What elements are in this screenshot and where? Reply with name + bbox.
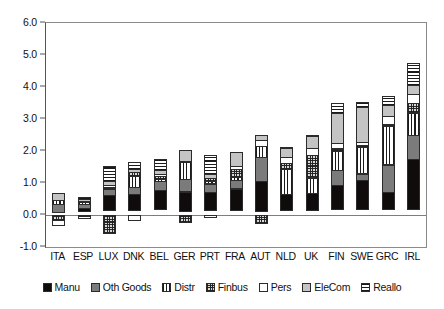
legend-item[interactable]: EleCom xyxy=(302,281,350,293)
y-axis-tick-label: 5.0 xyxy=(23,48,37,60)
bar-segment xyxy=(204,155,217,175)
legend-item-label: EleCom xyxy=(314,281,350,293)
bar-column[interactable] xyxy=(331,23,344,247)
bar-column[interactable] xyxy=(407,23,420,247)
bar-segment xyxy=(78,216,91,219)
bar-segment xyxy=(306,136,319,148)
bar-negative-stack xyxy=(78,215,91,219)
bar-positive-stack xyxy=(356,102,369,215)
x-axis-tick-label: PRT xyxy=(200,250,220,262)
bar-negative-stack xyxy=(204,215,217,218)
bar-segment xyxy=(154,190,167,210)
legend-item-label: Reallo xyxy=(373,281,401,293)
bar-positive-stack xyxy=(179,150,192,215)
legend-item[interactable]: Manu xyxy=(43,281,80,293)
legend-swatch-icon xyxy=(162,283,171,292)
bar-positive-stack xyxy=(154,159,167,215)
y-axis-tick-label: 1.0 xyxy=(23,176,37,188)
bar-positive-stack xyxy=(306,135,319,215)
bar-segment xyxy=(407,113,420,136)
bar-segment xyxy=(128,194,141,211)
bar-column[interactable] xyxy=(280,23,293,247)
bar-segment xyxy=(255,146,268,158)
legend-item-label: Manu xyxy=(55,281,80,293)
x-axis-tick-label: SWE xyxy=(350,250,373,262)
bar-segment xyxy=(280,169,293,195)
bar-positive-stack xyxy=(255,135,268,215)
bar-column[interactable] xyxy=(154,23,167,247)
legend-item[interactable]: Finbus xyxy=(206,281,248,293)
bar-positive-stack xyxy=(230,152,243,215)
bar-segment xyxy=(382,165,395,193)
x-axis-tick-label: FRA xyxy=(225,250,245,262)
bar-positive-stack xyxy=(382,96,395,215)
bar-positive-stack xyxy=(280,147,293,215)
y-axis-tick-label: 2.0 xyxy=(23,144,37,156)
bar-segment xyxy=(356,107,369,142)
y-axis: 6.05.04.03.02.01.00.0-1.0 xyxy=(0,22,45,248)
y-axis-tick-label: 3.0 xyxy=(23,112,37,124)
bar-segment xyxy=(306,155,319,178)
bar-segment xyxy=(356,147,369,174)
y-axis-tick-label: 6.0 xyxy=(23,16,37,28)
legend-swatch-icon xyxy=(206,283,215,292)
bar-segment xyxy=(52,204,65,213)
bar-column[interactable] xyxy=(306,23,319,247)
bar-segment xyxy=(204,215,217,218)
bar-segment xyxy=(255,215,268,224)
bar-positive-stack xyxy=(78,197,91,215)
bar-column[interactable] xyxy=(204,23,217,247)
bar-segment xyxy=(103,215,116,234)
legend-item[interactable]: Oth Goods xyxy=(91,281,152,293)
x-axis-tick-label: DNK xyxy=(123,250,144,262)
bar-column[interactable] xyxy=(78,23,91,247)
bar-segment xyxy=(128,215,141,221)
bar-column[interactable] xyxy=(179,23,192,247)
y-axis-tick-label: -1.0 xyxy=(20,240,37,252)
bar-segment xyxy=(78,208,91,212)
bar-segment xyxy=(382,126,395,165)
bar-column[interactable] xyxy=(230,23,243,247)
legend-swatch-icon xyxy=(91,283,100,292)
bar-negative-stack xyxy=(103,215,116,234)
bar-column[interactable] xyxy=(128,23,141,247)
bar-column[interactable] xyxy=(382,23,395,247)
bar-segment xyxy=(306,178,319,194)
bar-negative-stack xyxy=(128,215,141,221)
legend-swatch-icon xyxy=(43,283,52,292)
bar-column[interactable] xyxy=(52,23,65,247)
bar-positive-stack xyxy=(407,63,420,215)
bar-column[interactable] xyxy=(356,23,369,247)
bar-segment xyxy=(382,192,395,210)
bar-segment xyxy=(230,189,243,211)
bar-segment xyxy=(204,192,217,211)
bar-segment xyxy=(331,170,344,186)
legend-swatch-icon xyxy=(302,283,311,292)
bar-segment xyxy=(331,151,344,171)
legend-item[interactable]: Reallo xyxy=(361,281,401,293)
bar-segment xyxy=(103,166,116,182)
bar-positive-stack xyxy=(128,162,141,215)
bar-segment xyxy=(255,181,268,211)
x-axis-tick-label: GRC xyxy=(376,250,398,262)
legend-swatch-icon xyxy=(259,283,268,292)
bar-segment xyxy=(280,194,293,212)
legend-item[interactable]: Pers xyxy=(259,281,292,293)
x-axis-tick-label: UK xyxy=(304,250,318,262)
bar-negative-stack xyxy=(179,215,192,223)
bar-segment xyxy=(179,215,192,223)
bar-column[interactable] xyxy=(255,23,268,247)
bar-positive-stack xyxy=(204,155,217,215)
bar-positive-stack xyxy=(52,193,65,215)
bar-segment xyxy=(356,180,369,210)
bar-segment xyxy=(407,135,420,160)
bar-segment xyxy=(407,63,420,86)
legend-item-label: Distr xyxy=(174,281,194,293)
bar-positive-stack xyxy=(331,103,344,215)
y-axis-tick-label: 4.0 xyxy=(23,80,37,92)
legend-item[interactable]: Distr xyxy=(162,281,194,293)
legend-item-label: Finbus xyxy=(218,281,248,293)
bar-column[interactable] xyxy=(103,23,116,247)
bar-negative-stack xyxy=(52,215,65,227)
bar-positive-stack xyxy=(103,166,116,215)
